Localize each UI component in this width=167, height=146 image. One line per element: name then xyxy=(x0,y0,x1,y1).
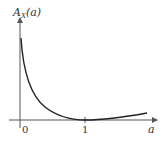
curve-line xyxy=(21,38,147,120)
x-axis-label: a xyxy=(148,123,155,136)
x-tick-label-0: 0 xyxy=(22,124,28,135)
chart: AX(a) 0 1 a xyxy=(0,0,167,146)
y-axis-label: AX(a) xyxy=(12,6,41,20)
x-tick-label-1: 1 xyxy=(82,124,88,135)
